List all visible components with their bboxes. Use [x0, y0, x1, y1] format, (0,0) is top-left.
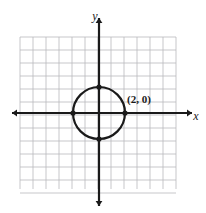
y-axis-label: y — [91, 9, 98, 23]
point-marker — [96, 136, 101, 141]
point-marker — [70, 110, 75, 115]
coordinate-grid-figure: x y (2, 0) — [0, 0, 206, 213]
figure-background — [0, 0, 206, 213]
coordinate-label: (2, 0) — [127, 93, 151, 106]
point-marker — [96, 84, 101, 89]
graph-canvas: x y (2, 0) — [0, 0, 206, 213]
point-marker — [122, 110, 127, 115]
coordinate-annotations: (2, 0) — [127, 93, 151, 106]
x-axis-label: x — [192, 109, 199, 123]
